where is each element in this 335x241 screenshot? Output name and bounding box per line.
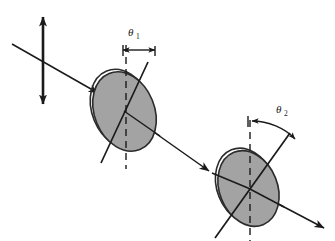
theta1-subscript: 1	[136, 32, 140, 41]
polarizer-1	[79, 45, 168, 169]
theta2-label: θ 2	[276, 103, 288, 118]
theta2-symbol: θ	[276, 103, 282, 115]
theta2-subscript: 2	[284, 109, 288, 118]
diagram-canvas: θ 1 θ 2	[0, 0, 335, 241]
incident-beam-ray	[12, 44, 98, 93]
polarizer-2	[205, 120, 290, 241]
polarizer-diagram: θ 1 θ 2	[0, 0, 335, 241]
theta1-angle-indicator	[123, 45, 155, 56]
theta1-label: θ 1	[128, 26, 140, 41]
theta1-symbol: θ	[128, 26, 134, 38]
